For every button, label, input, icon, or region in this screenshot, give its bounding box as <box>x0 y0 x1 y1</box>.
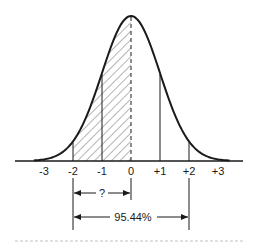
axis-ticks: -3-2-10+1+2+3 <box>39 160 224 177</box>
bell-curve <box>34 16 230 161</box>
normal-curve-diagram: -3-2-10+1+2+3 ? 95.44% <box>0 0 253 243</box>
tick-label: 0 <box>128 165 134 177</box>
tick-label: +1 <box>154 165 167 177</box>
question-label: ? <box>99 187 105 199</box>
total-label: 95.44% <box>114 211 152 223</box>
tick-label: -3 <box>39 165 49 177</box>
tick-label: -2 <box>68 165 78 177</box>
tick-label: -1 <box>97 165 107 177</box>
tick-label: +2 <box>183 165 196 177</box>
tick-label: +3 <box>212 165 225 177</box>
